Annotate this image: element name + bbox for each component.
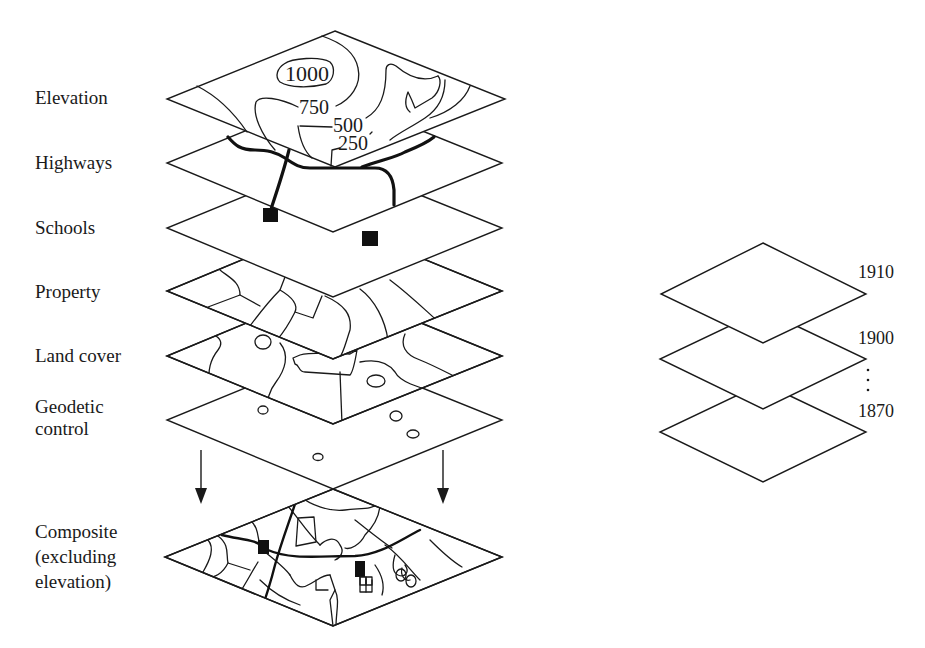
- arrow-down-left-icon: [195, 450, 207, 504]
- time-series-stack: [660, 243, 869, 482]
- ellipsis-icon: [867, 369, 870, 392]
- composite-layer: [165, 489, 502, 626]
- layer-stack-graphic: 1000 750 500 250: [0, 0, 925, 648]
- diagram-canvas: Elevation Highways Schools Property Land…: [0, 0, 925, 648]
- contour-label-750: 750: [299, 96, 329, 118]
- arrow-down-right-icon: [437, 450, 449, 504]
- contour-label-250: 250: [338, 132, 368, 154]
- time-layer-1910: [661, 243, 866, 343]
- contour-label-1000: 1000: [285, 61, 329, 86]
- school-marker-2: [362, 231, 378, 246]
